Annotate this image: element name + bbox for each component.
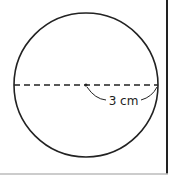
circle-diagram: 3 cm <box>0 0 172 177</box>
radius-bracket-right <box>141 87 157 100</box>
radius-label: 3 cm <box>109 94 139 108</box>
radius-bracket-left <box>87 87 106 100</box>
center-point <box>84 83 87 86</box>
